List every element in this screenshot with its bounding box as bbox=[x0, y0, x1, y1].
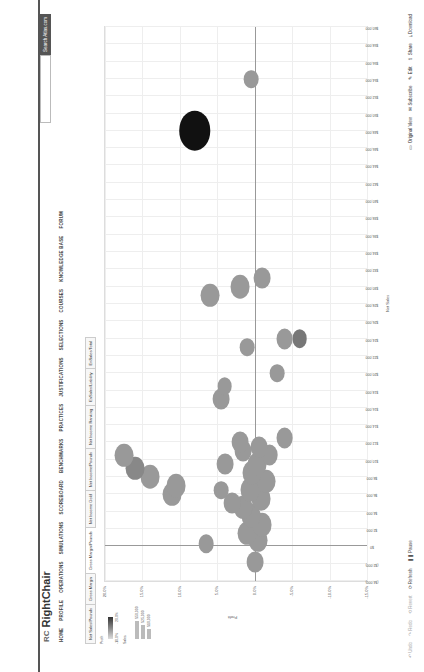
y-tick-label: 5.0% bbox=[214, 586, 219, 608]
original-view-button[interactable]: ▭ Original View bbox=[408, 117, 413, 150]
tab-net-income-ranking[interactable]: Net Income Ranking bbox=[85, 405, 96, 449]
data-bubble[interactable] bbox=[251, 436, 268, 457]
x-tick-label: $0 bbox=[370, 545, 374, 549]
data-bubble[interactable] bbox=[167, 474, 186, 498]
logo[interactable]: RC RightChair bbox=[40, 571, 52, 642]
grid-line-vertical bbox=[105, 43, 367, 44]
legend-size-title: Sales bbox=[123, 594, 127, 644]
grid-line-vertical bbox=[105, 130, 367, 131]
data-bubble[interactable] bbox=[200, 284, 219, 308]
x-tick-label: $22,000 bbox=[366, 355, 379, 359]
nav-item-forum[interactable]: FORUM bbox=[59, 211, 64, 229]
x-tick-label: $46,000 bbox=[366, 147, 379, 151]
nav-item-knowledge-base[interactable]: KNOWLEDGE BASE bbox=[59, 235, 64, 281]
share-button[interactable]: ⇪ Share bbox=[408, 43, 413, 60]
redo-button[interactable]: ↷ Redo bbox=[408, 620, 413, 636]
data-bubble[interactable] bbox=[217, 377, 232, 395]
tab-gross-margin-pounds[interactable]: Gross Margin/Pounds bbox=[85, 527, 96, 574]
nav-item-operations[interactable]: OPERATIONS bbox=[59, 561, 64, 592]
data-bubble[interactable] bbox=[244, 70, 259, 88]
search-box: Search Atlas.com bbox=[40, 14, 51, 123]
undo-button[interactable]: ↶ Undo bbox=[408, 642, 413, 658]
grid-line-vertical bbox=[105, 113, 367, 114]
search-button[interactable]: Search Atlas.com bbox=[40, 14, 51, 55]
x-tick-label: $6,000 bbox=[367, 493, 378, 497]
nav-item-profile[interactable]: PROFILE bbox=[59, 600, 64, 621]
tab-gross-margin[interactable]: Gross Margin bbox=[85, 573, 96, 605]
data-bubble[interactable] bbox=[214, 481, 229, 499]
data-bubble[interactable] bbox=[179, 111, 211, 150]
nav-item-selections[interactable]: SELECTIONS bbox=[59, 319, 64, 350]
pause-button[interactable]: ❚❚ Pause bbox=[408, 540, 413, 562]
legend-size-label: $50,000 bbox=[135, 606, 139, 619]
tab-ensales-total[interactable]: EnSales/Total bbox=[85, 337, 96, 369]
revert-button[interactable]: ⟲ Revert bbox=[408, 595, 413, 614]
grid-line-vertical bbox=[105, 268, 367, 269]
data-bubble[interactable] bbox=[199, 535, 214, 553]
refresh-button[interactable]: ⟳ Refresh bbox=[408, 568, 413, 589]
view-tabs: Net Sales/PoundsGross MarginGross Margin… bbox=[85, 338, 96, 644]
grid-line-vertical bbox=[105, 234, 367, 235]
download-button[interactable]: ⤓ Download bbox=[408, 14, 413, 37]
nav-item-courses[interactable]: COURSES bbox=[59, 289, 64, 313]
nav-item-simulations[interactable]: SIMULATIONS bbox=[59, 521, 64, 554]
nav-item-scoreboard[interactable]: SCOREBOARD bbox=[59, 480, 64, 515]
grid-line-horizontal bbox=[105, 27, 106, 581]
grid-line-vertical bbox=[105, 390, 367, 391]
pause-icon: ❚❚ bbox=[408, 553, 413, 562]
grid-line-vertical bbox=[105, 61, 367, 62]
subscribe-icon: ✉ bbox=[408, 106, 413, 111]
data-bubble[interactable] bbox=[230, 275, 249, 299]
x-tick-label: $38,000 bbox=[366, 216, 379, 220]
grid-line-vertical bbox=[105, 563, 367, 564]
subscribe-button[interactable]: ✉ Subscribe bbox=[408, 86, 413, 111]
data-bubble[interactable] bbox=[216, 454, 233, 475]
download-label: Download bbox=[408, 14, 413, 34]
redo-icon: ↷ bbox=[408, 631, 413, 636]
scatter-plot-area[interactable] bbox=[104, 26, 368, 582]
x-tick-label: $54,000 bbox=[366, 78, 379, 82]
tab-net-income-gold[interactable]: Net Income Gold bbox=[85, 490, 96, 528]
tab-ensales-liability[interactable]: EnSales/Liability bbox=[85, 369, 96, 406]
y-tick-label: 15.0% bbox=[139, 586, 144, 608]
x-tick-label: $16,000 bbox=[366, 407, 379, 411]
y-tick-label: 0.0% bbox=[252, 586, 257, 608]
nav-item-benchmarks[interactable]: BENCHMARKS bbox=[59, 438, 64, 473]
data-bubble[interactable] bbox=[114, 444, 133, 468]
zero-line-x bbox=[105, 545, 367, 546]
data-bubble[interactable] bbox=[270, 364, 285, 382]
subscribe-label: Subscribe bbox=[408, 86, 413, 106]
y-tick-label: 20.0% bbox=[102, 586, 107, 608]
x-tick-label: $56,000 bbox=[366, 61, 379, 65]
tab-net-income-pounds[interactable]: Net Income/Pounds bbox=[85, 448, 96, 491]
x-tick-label: $50,000 bbox=[366, 113, 379, 117]
nav-item-justifications[interactable]: JUSTIFICATIONS bbox=[59, 357, 64, 396]
grid-line-vertical bbox=[105, 407, 367, 408]
data-bubble[interactable] bbox=[246, 551, 263, 572]
x-tick-label: $48,000 bbox=[366, 130, 379, 134]
toolbar-left: ↶ Undo↷ Redo⟲ Revert⟳ Refresh❚❚ Pause bbox=[408, 540, 413, 658]
nav-item-home[interactable]: HOME bbox=[59, 628, 64, 642]
nav-item-practices[interactable]: PRACTICES bbox=[59, 404, 64, 432]
data-bubble[interactable] bbox=[240, 338, 255, 356]
data-bubble[interactable] bbox=[292, 329, 307, 347]
data-bubble[interactable] bbox=[231, 432, 248, 453]
x-tick-label: $58,000 bbox=[366, 43, 379, 47]
x-tick-label: $2,000 bbox=[367, 528, 378, 532]
legend-size-row: $50,000 bbox=[135, 594, 139, 639]
edit-button[interactable]: ✎ Edit bbox=[408, 67, 413, 80]
legend-size-label: $25,000 bbox=[141, 610, 145, 623]
share-label: Share bbox=[408, 43, 413, 55]
grid-line-horizontal bbox=[292, 27, 293, 581]
undo-icon: ↶ bbox=[408, 653, 413, 658]
share-icon: ⇪ bbox=[408, 55, 413, 60]
search-input[interactable] bbox=[40, 55, 51, 123]
data-bubble[interactable] bbox=[276, 328, 293, 349]
legend-size-swatch bbox=[141, 625, 145, 639]
tab-net-sales-pounds[interactable]: Net Sales/Pounds bbox=[85, 604, 96, 644]
data-bubble[interactable] bbox=[276, 428, 293, 449]
grid-line-vertical bbox=[105, 251, 367, 252]
x-tick-label: $60,000 bbox=[366, 26, 379, 30]
grid-line-vertical bbox=[105, 78, 367, 79]
data-bubble[interactable] bbox=[254, 268, 271, 289]
